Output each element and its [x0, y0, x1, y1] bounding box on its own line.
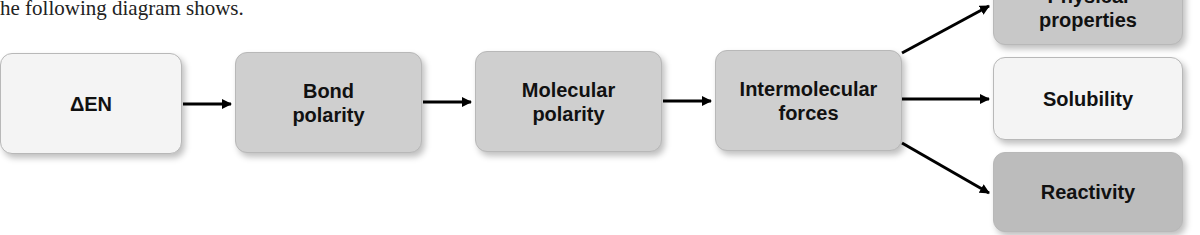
node-physical-properties-label-top: Physical — [1039, 0, 1137, 8]
node-molecular-polarity-label: Molecular polarity — [514, 78, 624, 126]
node-intermolecular-forces: Intermolecular forces — [715, 50, 902, 151]
node-solubility-label: Solubility — [1043, 87, 1133, 111]
node-reactivity: Reactivity — [993, 152, 1183, 232]
node-delta-en-label: ΔEN — [70, 92, 112, 116]
node-molecular-polarity: Molecular polarity — [475, 51, 662, 152]
node-intermolecular-forces-label: Intermolecular forces — [724, 77, 894, 125]
node-solubility: Solubility — [993, 57, 1183, 140]
node-physical-properties: Physical properties — [993, 0, 1183, 45]
node-bond-polarity: Bond polarity — [235, 52, 422, 153]
node-physical-properties-label-bottom: properties — [1039, 8, 1137, 32]
arrow-to-physical — [902, 6, 989, 53]
arrow-to-reactivity — [902, 143, 989, 193]
node-delta-en: ΔEN — [0, 53, 182, 154]
node-bond-polarity-label: Bond polarity — [274, 79, 384, 127]
node-reactivity-label: Reactivity — [1041, 180, 1136, 204]
